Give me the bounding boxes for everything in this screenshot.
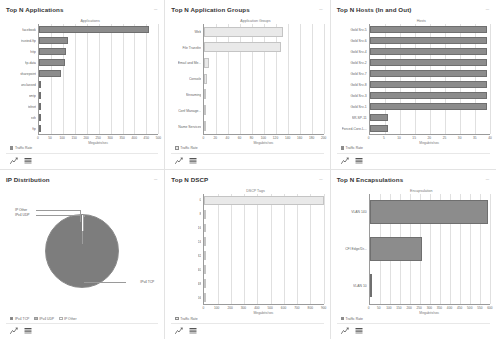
legend-item[interactable]: Traffic Rate bbox=[10, 146, 32, 150]
chart-view-icon[interactable] bbox=[10, 327, 18, 335]
bar-row[interactable] bbox=[204, 276, 323, 290]
bar[interactable] bbox=[370, 200, 488, 224]
chart-view-icon[interactable] bbox=[175, 327, 183, 335]
bar-row[interactable] bbox=[204, 235, 323, 249]
legend-item[interactable]: IPv4 TCP bbox=[10, 317, 29, 321]
bar-row[interactable] bbox=[204, 102, 323, 118]
chart-view-icon[interactable] bbox=[341, 327, 349, 335]
pie-slices[interactable] bbox=[45, 214, 119, 288]
bar[interactable] bbox=[204, 293, 206, 302]
chart-view-icon[interactable] bbox=[10, 157, 18, 165]
table-view-icon[interactable] bbox=[355, 157, 363, 165]
collapse-icon[interactable]: – bbox=[154, 176, 158, 182]
table-view-icon[interactable] bbox=[24, 327, 32, 335]
bar[interactable] bbox=[39, 26, 149, 33]
bar-row[interactable] bbox=[39, 24, 158, 35]
collapse-icon[interactable]: – bbox=[486, 176, 490, 182]
bar-row[interactable] bbox=[204, 207, 323, 221]
bar-row[interactable] bbox=[39, 35, 158, 46]
bar[interactable] bbox=[39, 81, 41, 88]
bar[interactable] bbox=[370, 59, 487, 66]
legend-item[interactable]: Traffic Rate bbox=[175, 146, 197, 150]
bar-row[interactable] bbox=[39, 101, 158, 112]
legend-item[interactable]: IPv4 UDP bbox=[34, 317, 54, 321]
bar[interactable] bbox=[204, 265, 206, 274]
collapse-icon[interactable]: – bbox=[319, 176, 323, 182]
bar[interactable] bbox=[204, 121, 206, 131]
bar-row[interactable] bbox=[204, 221, 323, 235]
bar[interactable] bbox=[39, 92, 41, 99]
legend-item[interactable]: Traffic Rate bbox=[341, 317, 363, 321]
bar-row[interactable] bbox=[370, 35, 490, 46]
bar[interactable] bbox=[204, 196, 323, 205]
bar-row[interactable] bbox=[204, 263, 323, 277]
collapse-icon[interactable]: – bbox=[319, 6, 323, 12]
bar-row[interactable] bbox=[370, 90, 490, 101]
bar[interactable] bbox=[39, 37, 68, 44]
bar-row[interactable] bbox=[370, 79, 490, 90]
bar[interactable] bbox=[204, 58, 209, 68]
collapse-icon[interactable]: – bbox=[486, 6, 490, 12]
collapse-icon[interactable]: – bbox=[154, 6, 158, 12]
bar-row[interactable] bbox=[204, 71, 323, 87]
table-view-icon[interactable] bbox=[189, 327, 197, 335]
bar-row[interactable] bbox=[370, 68, 490, 79]
bar[interactable] bbox=[370, 237, 423, 261]
bar-row[interactable] bbox=[39, 90, 158, 101]
bar-row[interactable] bbox=[370, 267, 490, 304]
bar[interactable] bbox=[370, 48, 487, 55]
bar[interactable] bbox=[39, 48, 66, 55]
bar[interactable] bbox=[204, 42, 280, 52]
bar[interactable] bbox=[39, 114, 41, 121]
bar[interactable] bbox=[204, 27, 283, 37]
table-view-icon[interactable] bbox=[24, 157, 32, 165]
bar-row[interactable] bbox=[39, 79, 158, 90]
bar[interactable] bbox=[370, 274, 372, 298]
bar[interactable] bbox=[370, 114, 388, 121]
bar-row[interactable] bbox=[370, 24, 490, 35]
bar-row[interactable] bbox=[39, 46, 158, 57]
bar-row[interactable] bbox=[204, 194, 323, 208]
bar-row[interactable] bbox=[204, 40, 323, 56]
bar-row[interactable] bbox=[204, 55, 323, 71]
bar-row[interactable] bbox=[370, 57, 490, 68]
bar[interactable] bbox=[370, 81, 487, 88]
bar-row[interactable] bbox=[204, 118, 323, 134]
bar[interactable] bbox=[204, 279, 206, 288]
bar[interactable] bbox=[370, 125, 388, 132]
bar[interactable] bbox=[204, 210, 206, 219]
bar[interactable] bbox=[370, 37, 487, 44]
bar-row[interactable] bbox=[39, 123, 158, 134]
bar[interactable] bbox=[39, 59, 65, 66]
bar-row[interactable] bbox=[204, 87, 323, 103]
bar-row[interactable] bbox=[39, 112, 158, 123]
chart-view-icon[interactable] bbox=[175, 157, 183, 165]
bar[interactable] bbox=[204, 224, 206, 233]
bar[interactable] bbox=[204, 251, 206, 260]
bar-row[interactable] bbox=[370, 194, 490, 231]
bar[interactable] bbox=[39, 103, 41, 110]
bar[interactable] bbox=[370, 92, 487, 99]
bar-row[interactable] bbox=[370, 112, 490, 123]
legend-item[interactable]: Traffic Rate bbox=[341, 146, 363, 150]
bar[interactable] bbox=[370, 70, 487, 77]
bar[interactable] bbox=[39, 125, 41, 132]
bar-row[interactable] bbox=[370, 230, 490, 267]
bar-row[interactable] bbox=[204, 249, 323, 263]
table-view-icon[interactable] bbox=[189, 157, 197, 165]
bar[interactable] bbox=[204, 105, 206, 115]
bar-row[interactable] bbox=[370, 101, 490, 112]
chart-view-icon[interactable] bbox=[341, 157, 349, 165]
bar[interactable] bbox=[370, 103, 487, 110]
bar[interactable] bbox=[204, 89, 206, 99]
bar[interactable] bbox=[204, 74, 207, 84]
bar[interactable] bbox=[204, 237, 206, 246]
bar-row[interactable] bbox=[39, 68, 158, 79]
bar-row[interactable] bbox=[370, 123, 490, 134]
table-view-icon[interactable] bbox=[355, 327, 363, 335]
bar-row[interactable] bbox=[39, 57, 158, 68]
bar[interactable] bbox=[370, 26, 487, 33]
bar-row[interactable] bbox=[204, 290, 323, 304]
bar[interactable] bbox=[39, 70, 61, 77]
bar-row[interactable] bbox=[204, 24, 323, 40]
